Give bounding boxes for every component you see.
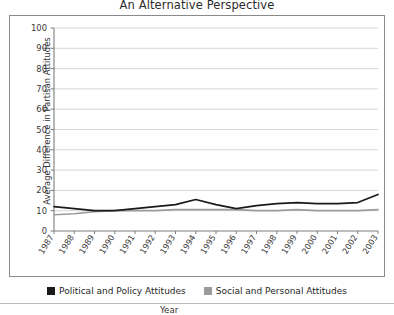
legend-swatch-social: [204, 287, 212, 295]
x-tick-label: 1987: [36, 233, 56, 256]
x-tick-label: 1992: [137, 233, 157, 256]
bottom-divider: [0, 303, 394, 304]
y-tick-label: 70: [36, 84, 47, 94]
y-tick-label: 30: [36, 165, 47, 175]
x-tick-label: 1999: [279, 233, 299, 256]
y-tick-label: 20: [36, 185, 47, 195]
x-tick-label: 1990: [97, 233, 117, 256]
x-tick-label: 2002: [340, 233, 360, 256]
x-tick-label: 1996: [218, 233, 238, 256]
x-tick-label: 1989: [77, 233, 97, 256]
x-tick-label: 1995: [198, 233, 218, 256]
y-tick-label: 10: [36, 206, 47, 216]
y-tick-label: 80: [36, 64, 47, 74]
y-tick-label: 90: [36, 43, 47, 53]
plot-canvas: 0102030405060708090100 19871988198919901…: [10, 16, 386, 278]
gridlines-group: [54, 28, 378, 231]
legend-swatch-political: [47, 287, 55, 295]
x-tick-label: 2001: [320, 233, 340, 256]
x-tick-label: 1997: [239, 233, 259, 256]
legend-item-social: Social and Personal Attitudes: [204, 286, 347, 296]
x-axis-label: Year: [160, 305, 178, 315]
x-tick-label: 1991: [117, 233, 137, 256]
y-tick-label: 50: [36, 125, 47, 135]
series-line: [54, 194, 378, 210]
legend-label-political: Political and Policy Attitudes: [59, 286, 186, 296]
y-tick-label: 60: [36, 104, 47, 114]
x-tick-label: 2000: [299, 233, 319, 256]
chart-legend: Political and Policy Attitudes Social an…: [0, 286, 394, 296]
x-tick-label: 2003: [360, 233, 380, 256]
x-tick-label: 1998: [259, 233, 279, 256]
x-tick-labels-group: 1987198819891990199119921993199419951996…: [36, 231, 380, 256]
y-tick-labels-group: 0102030405060708090100: [31, 23, 54, 236]
y-tick-label: 40: [36, 145, 47, 155]
legend-item-political: Political and Policy Attitudes: [47, 286, 186, 296]
legend-label-social: Social and Personal Attitudes: [216, 286, 347, 296]
chart-title: An Alternative Perspective: [0, 0, 394, 12]
series-lines-group: [54, 194, 378, 214]
y-tick-label: 100: [31, 23, 47, 33]
x-tick-label: 1994: [178, 233, 198, 256]
plot-frame: Average Difference in Partisan Attitudes…: [9, 15, 385, 277]
x-tick-label: 1993: [158, 233, 178, 256]
x-tick-label: 1988: [56, 233, 76, 256]
